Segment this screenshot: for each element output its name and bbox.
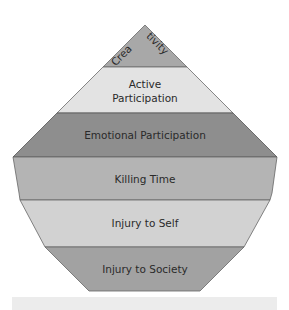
label-injury-to-society: Injury to Society xyxy=(102,263,188,275)
label-active-participation-line2: Participation xyxy=(112,92,178,104)
footer-bar xyxy=(12,297,277,310)
label-emotional-participation: Emotional Participation xyxy=(84,129,206,141)
label-killing-time: Killing Time xyxy=(115,173,176,185)
label-injury-to-self: Injury to Self xyxy=(112,217,179,229)
pyramid-diagram: Crea tivity Active Participation Emotion… xyxy=(0,0,289,310)
label-active-participation-line1: Active xyxy=(129,78,161,90)
layer-active-participation xyxy=(57,67,233,113)
